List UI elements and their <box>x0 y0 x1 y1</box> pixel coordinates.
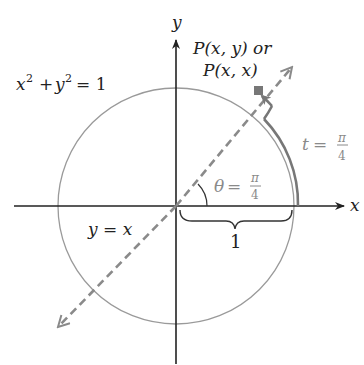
eq-y: y <box>54 74 65 94</box>
arc-var: t <box>302 134 309 154</box>
point-p <box>254 86 263 95</box>
eq-exp-1: 2 <box>26 72 33 85</box>
angle-var: θ <box>214 176 224 196</box>
angle-label: θ = π 4 <box>214 171 261 202</box>
eq-exp-2: 2 <box>65 72 72 85</box>
point-label-line2: P(x, x) <box>202 60 258 80</box>
angle-numerator: π <box>250 171 260 185</box>
line-label: y = x <box>87 219 133 239</box>
radius-brace <box>180 210 292 229</box>
y-axis-label: y <box>171 12 182 32</box>
circle-equation-label: x 2 + y 2 = 1 <box>16 72 106 94</box>
angle-denominator: 4 <box>251 188 259 202</box>
eq-rhs: = 1 <box>76 74 106 94</box>
radius-label: 1 <box>230 231 241 252</box>
arc-length-t-body <box>264 106 272 119</box>
arc-denominator: 4 <box>338 149 346 163</box>
arc-eq: = <box>313 134 327 154</box>
eq-x: x <box>16 74 26 94</box>
eq-plus: + <box>39 74 53 94</box>
unit-circle-figure: y x x 2 + y 2 = 1 y = x P(x, y) or P(x, … <box>0 0 364 365</box>
angle-eq: = <box>227 176 241 196</box>
x-axis-label: x <box>350 195 360 215</box>
angle-arc-theta <box>198 184 207 206</box>
arc-numerator: π <box>337 131 347 145</box>
arc-length-label: t = π 4 <box>302 131 348 163</box>
point-label-line1: P(x, y) or <box>192 38 272 58</box>
